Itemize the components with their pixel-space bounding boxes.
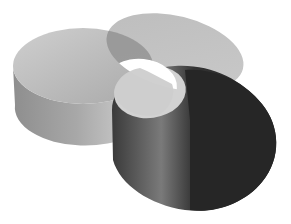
venn-cylinder-diagram: [0, 0, 291, 224]
front-cylinder-dark-face: [185, 70, 276, 211]
